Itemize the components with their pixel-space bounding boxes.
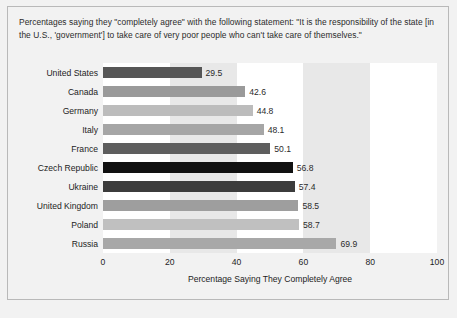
bar: [103, 105, 253, 116]
bar-value-label: 58.7: [303, 220, 320, 230]
x-axis-title: Percentage Saying They Completely Agree: [103, 274, 437, 284]
x-axis-ticks: 020406080100: [103, 253, 437, 293]
bar-series: 29.542.644.848.150.156.857.458.558.769.9: [103, 63, 437, 253]
bar-value-label: 57.4: [299, 182, 316, 192]
bar: [103, 200, 298, 211]
plot-area: 29.542.644.848.150.156.857.458.558.769.9: [103, 63, 437, 253]
bar-value-label: 48.1: [268, 125, 285, 135]
x-tick-label: 100: [430, 257, 444, 267]
bar-value-label: 50.1: [274, 144, 291, 154]
bar-value-label: 56.8: [297, 163, 314, 173]
category-label: Canada: [68, 87, 98, 97]
bar: [103, 143, 270, 154]
category-label: Poland: [71, 220, 98, 230]
x-tick-label: 60: [299, 257, 309, 267]
bar: [103, 238, 336, 249]
x-tick-label: 80: [365, 257, 375, 267]
x-tick-label: 20: [165, 257, 175, 267]
bar-row: 29.5: [103, 67, 437, 78]
bar-value-label: 42.6: [249, 87, 266, 97]
bar-row: 69.9: [103, 238, 437, 249]
bar-value-label: 58.5: [302, 201, 319, 211]
category-label: United States: [46, 68, 98, 78]
category-label: Germany: [63, 106, 98, 116]
bar: [103, 181, 295, 192]
x-tick-label: 0: [101, 257, 106, 267]
category-label: United Kingdom: [37, 201, 98, 211]
bar-value-label: 69.9: [340, 239, 357, 249]
chart-title: Percentages saying they "completely agre…: [19, 16, 439, 41]
bar-row: 58.5: [103, 200, 437, 211]
x-tick-label: 40: [232, 257, 242, 267]
bar-value-label: 44.8: [257, 106, 274, 116]
bar-row: 58.7: [103, 219, 437, 230]
category-label: France: [71, 144, 98, 154]
bar: [103, 162, 293, 173]
bar-value-label: 29.5: [206, 68, 223, 78]
bar-row: 42.6: [103, 86, 437, 97]
category-label: Italy: [82, 125, 98, 135]
bar: [103, 86, 245, 97]
bar-row: 44.8: [103, 105, 437, 116]
bar-row: 56.8: [103, 162, 437, 173]
bar-row: 48.1: [103, 124, 437, 135]
bar-row: 57.4: [103, 181, 437, 192]
bar-row: 50.1: [103, 143, 437, 154]
figure-canvas: Percentages saying they "completely agre…: [0, 0, 457, 318]
category-axis-labels: United StatesCanadaGermanyItalyFranceCze…: [0, 63, 98, 253]
category-label: Czech Republic: [38, 163, 98, 173]
bar: [103, 67, 202, 78]
category-label: Ukraine: [68, 182, 98, 192]
bar: [103, 124, 264, 135]
bar: [103, 219, 299, 230]
category-label: Russia: [72, 239, 98, 249]
